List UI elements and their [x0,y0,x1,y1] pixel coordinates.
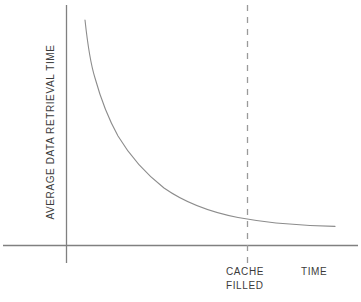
cache-filled-label-line-1: CACHE [226,265,264,279]
chart-figure: AVERAGE DATA RETRIEVAL TIME TIME CACHE F… [0,0,361,302]
cache-filled-annotation-label: CACHE FILLED [226,265,264,293]
cache-filled-label-line-2: FILLED [226,279,264,293]
retrieval-time-curve [85,20,335,226]
x-axis-title: TIME [301,265,327,278]
y-axis-title: AVERAGE DATA RETRIEVAL TIME [44,45,57,220]
